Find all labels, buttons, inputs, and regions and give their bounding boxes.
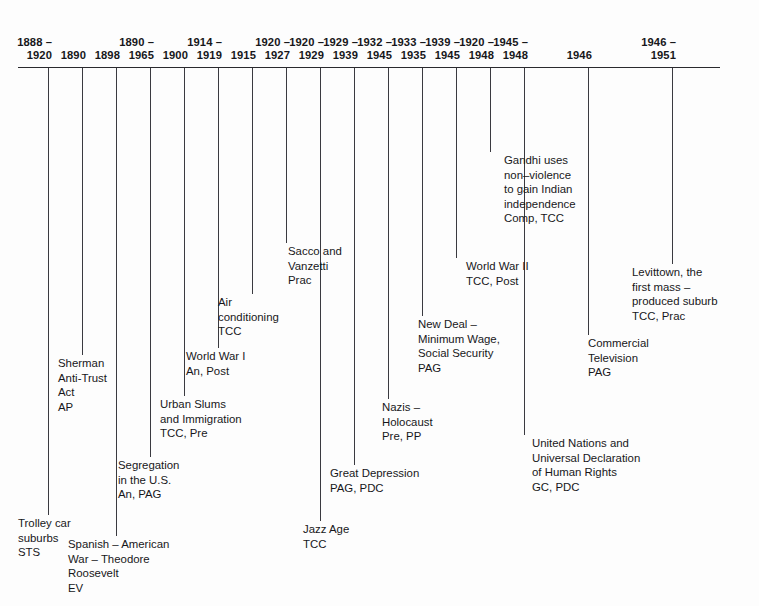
date-label-united-nations-human-rights: 1945 –1948 [493,36,528,63]
leader-line-united-nations-human-rights [524,68,525,435]
event-line: World War I [186,349,246,364]
date-from: 1932 – [357,36,392,49]
event-line: suburbs [18,531,71,546]
event-new-deal: New Deal –Minimum Wage,Social SecurityPA… [418,317,500,375]
event-line: GC, PDC [532,480,640,495]
date-to: 1935 [391,49,426,62]
event-gandhi-non-violence: Gandhi usesnon–violenceto gain Indianind… [504,153,576,226]
date-to: 1890 [61,49,86,62]
event-line: Commercial [588,336,649,351]
event-line: An, PAG [118,487,179,502]
leader-line-commercial-television [588,68,589,335]
event-line: PAG, PDC [330,481,419,496]
date-to: 1919 [187,49,222,62]
event-nazis-holocaust: Nazis –HolocaustPre, PP [382,400,433,444]
event-commercial-television: CommercialTelevisionPAG [588,336,649,380]
date-from: 1945 – [493,36,528,49]
date-from: 1888 – [17,36,52,49]
event-line: non–violence [504,168,576,183]
event-line: conditioning [218,310,279,325]
date-from [231,36,256,49]
date-from: 1939 – [425,36,460,49]
date-from: 1890 – [119,36,154,49]
date-from [163,36,188,49]
event-line: Nazis – [382,400,433,415]
event-world-war-i: World War IAn, Post [186,349,246,378]
date-label-segregation-in-the-us: 1890 –1965 [119,36,154,63]
date-label-spanish-american-war: 1898 [95,36,120,63]
leader-line-trolley-car-suburbs [48,68,49,515]
event-line: AP [58,400,107,415]
event-line: Segregation [118,458,179,473]
event-line: to gain Indian [504,182,576,197]
date-from [95,36,120,49]
leader-line-gandhi-non-violence [490,68,491,152]
date-label-commercial-television: 1946 [567,36,592,63]
event-line: TCC, Pre [160,426,242,441]
date-to: 1929 [289,49,324,62]
date-to: 1939 [323,49,358,62]
date-to: 1945 [357,49,392,62]
date-from [61,36,86,49]
event-line: produced suburb [632,294,718,309]
event-line: War – Theodore [68,552,169,567]
date-from: 1946 – [641,36,676,49]
date-label-urban-slums-and-immigration: 1900 [163,36,188,63]
event-line: Act [58,385,107,400]
event-line: Urban Slums [160,397,242,412]
event-line: Vanzetti [288,259,342,274]
event-line: Holocaust [382,415,433,430]
event-line: TCC, Post [466,274,529,289]
timeline-axis-line [18,67,720,68]
date-from [567,36,592,49]
leader-line-sacco-and-vanzetti [286,68,287,243]
date-label-sherman-anti-trust-act: 1890 [61,36,86,63]
leader-line-world-war-ii [456,68,457,258]
event-line: Universal Declaration [532,451,640,466]
event-line: Minimum Wage, [418,332,500,347]
date-to: 1945 [425,49,460,62]
event-urban-slums-and-immigration: Urban Slumsand ImmigrationTCC, Pre [160,397,242,441]
date-to: 1948 [493,49,528,62]
event-line: Jazz Age [303,522,349,537]
event-line: EV [68,581,169,596]
date-to: 1900 [163,49,188,62]
leader-line-new-deal [422,68,423,316]
event-jazz-age: Jazz AgeTCC [303,522,349,551]
event-line: Prac [288,273,342,288]
event-line: Anti-Trust [58,371,107,386]
event-great-depression: Great DepressionPAG, PDC [330,466,419,495]
date-to: 1915 [231,49,256,62]
event-air-conditioning: AirconditioningTCC [218,295,279,339]
date-from: 1914 – [187,36,222,49]
leader-line-segregation-in-the-us [150,68,151,457]
date-label-air-conditioning: 1915 [231,36,256,63]
date-to: 1927 [255,49,290,62]
event-line: TCC [303,537,349,552]
event-sherman-anti-trust-act: ShermanAnti-TrustActAP [58,356,107,414]
event-line: Gandhi uses [504,153,576,168]
date-to: 1920 [17,49,52,62]
event-line: Great Depression [330,466,419,481]
date-from: 1929 – [323,36,358,49]
date-label-nazis-holocaust: 1932 –1945 [357,36,392,63]
date-from: 1933 – [391,36,426,49]
date-label-jazz-age: 1920 –1929 [289,36,324,63]
date-to: 1948 [459,49,494,62]
event-line: United Nations and [532,436,640,451]
event-line: Comp, TCC [504,211,576,226]
event-line: World War II [466,259,529,274]
date-label-levittown: 1946 –1951 [641,36,676,63]
event-line: An, Post [186,364,246,379]
date-from: 1920 – [255,36,290,49]
date-to: 1965 [119,49,154,62]
event-line: Pre, PP [382,429,433,444]
event-line: of Human Rights [532,465,640,480]
date-label-new-deal: 1933 –1935 [391,36,426,63]
event-line: Television [588,351,649,366]
date-label-trolley-car-suburbs: 1888 –1920 [17,36,52,63]
date-label-sacco-and-vanzetti: 1920 –1927 [255,36,290,63]
timeline-page: 1888 –1920 1890 18981890 –1965 19001914 … [0,0,759,606]
date-to: 1951 [641,49,676,62]
date-to: 1946 [567,49,592,62]
